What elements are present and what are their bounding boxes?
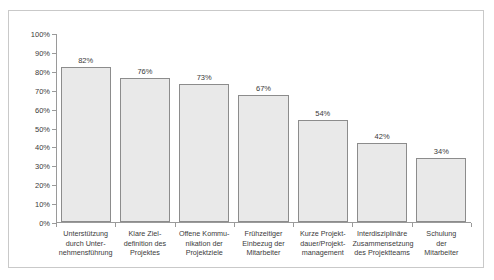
x-axis-category-label-line: Offene Kommu- xyxy=(175,229,234,239)
bar: 34% xyxy=(416,158,466,222)
x-axis-tick-mark xyxy=(234,223,235,227)
x-axis-category-label-line: Mitarbeiter xyxy=(234,248,293,258)
bar-value-label: 82% xyxy=(78,56,93,65)
y-axis-tick-mark xyxy=(52,204,56,205)
y-axis-tick-label: 20% xyxy=(35,181,50,190)
x-axis-category-label-line: Einbezug der xyxy=(234,239,293,249)
bar-value-label: 67% xyxy=(256,84,271,93)
x-axis-line xyxy=(56,222,471,223)
y-axis-tick-mark xyxy=(52,166,56,167)
bar: 82% xyxy=(61,67,111,222)
x-axis-category-label: Offene Kommu-nikation derProjektziele xyxy=(175,229,234,258)
bar-value-label: 76% xyxy=(137,67,152,76)
x-axis-category-label-line: Kurze Projekt- xyxy=(293,229,352,239)
x-axis-category-label-line: management xyxy=(293,248,352,258)
plot-area: 0%10%20%30%40%50%60%70%80%90%100% 82%76%… xyxy=(56,34,471,223)
x-axis-category-label-line: des Projektteams xyxy=(352,248,411,258)
y-axis-tick-mark xyxy=(52,34,56,35)
bar-value-label: 73% xyxy=(197,73,212,82)
y-axis-tick-mark xyxy=(52,72,56,73)
x-axis-category-label-line: definition des xyxy=(115,239,174,249)
x-axis-category-label: SchulungderMitarbeiter xyxy=(412,229,471,258)
y-axis-tick-label: 0% xyxy=(39,219,50,228)
bar-value-label: 34% xyxy=(434,147,449,156)
y-axis-tick-label: 100% xyxy=(31,30,50,39)
bar-value-label: 54% xyxy=(315,109,330,118)
y-axis-tick-mark xyxy=(52,91,56,92)
x-axis-category-label: Kurze Projekt-dauer/Projekt-management xyxy=(293,229,352,258)
chart-frame: 0%10%20%30%40%50%60%70%80%90%100% 82%76%… xyxy=(8,10,484,268)
y-axis-tick-label: 50% xyxy=(35,124,50,133)
x-axis-category-label: Klare Ziel-definition desProjektes xyxy=(115,229,174,258)
x-axis-category-label-line: Projektziele xyxy=(175,248,234,258)
x-axis-category-label-line: Unterstützung xyxy=(56,229,115,239)
x-axis-tick-mark xyxy=(56,223,57,227)
y-axis-tick-label: 60% xyxy=(35,105,50,114)
x-axis-tick-mark xyxy=(412,223,413,227)
y-axis-tick-label: 10% xyxy=(35,200,50,209)
y-axis-tick-mark xyxy=(52,53,56,54)
x-axis-category-label-line: durch Unter- xyxy=(56,239,115,249)
y-axis-line xyxy=(56,34,57,223)
bar: 54% xyxy=(298,120,348,222)
x-axis-category-label: Unterstützungdurch Unter-nehmensführung xyxy=(56,229,115,258)
x-axis-category-label-line: dauer/Projekt- xyxy=(293,239,352,249)
x-axis-tick-mark xyxy=(471,223,472,227)
x-axis-category-label: InterdisziplinäreZusammensetzungdes Proj… xyxy=(352,229,411,258)
x-axis-category-label-line: Frühzeitiger xyxy=(234,229,293,239)
x-axis-category-label-line: nikation der xyxy=(175,239,234,249)
x-axis-category-label-line: Projektes xyxy=(115,248,174,258)
y-axis-tick-label: 70% xyxy=(35,86,50,95)
bar: 76% xyxy=(120,78,170,222)
bar: 67% xyxy=(238,95,288,222)
y-axis-tick-label: 30% xyxy=(35,162,50,171)
y-axis-tick-mark xyxy=(52,129,56,130)
x-axis-category-label-line: Interdisziplinäre xyxy=(352,229,411,239)
x-axis-category-label: FrühzeitigerEinbezug derMitarbeiter xyxy=(234,229,293,258)
x-axis-category-label-line: der xyxy=(412,239,471,249)
x-axis-category-label-line: nehmensführung xyxy=(56,248,115,258)
x-axis-category-label-line: Schulung xyxy=(412,229,471,239)
x-axis-category-label-line: Mitarbeiter xyxy=(412,248,471,258)
x-axis-tick-mark xyxy=(293,223,294,227)
y-axis-tick-label: 40% xyxy=(35,143,50,152)
bar: 42% xyxy=(357,143,407,222)
y-axis-tick-mark xyxy=(52,185,56,186)
x-axis-tick-mark xyxy=(175,223,176,227)
x-axis-category-label-line: Klare Ziel- xyxy=(115,229,174,239)
y-axis-tick-mark xyxy=(52,110,56,111)
y-axis-tick-mark xyxy=(52,147,56,148)
y-axis-tick-label: 80% xyxy=(35,67,50,76)
bar: 73% xyxy=(179,84,229,222)
x-axis-tick-mark xyxy=(352,223,353,227)
x-axis-tick-mark xyxy=(115,223,116,227)
y-axis-tick-label: 90% xyxy=(35,48,50,57)
bar-value-label: 42% xyxy=(375,132,390,141)
x-axis-category-label-line: Zusammensetzung xyxy=(352,239,411,249)
